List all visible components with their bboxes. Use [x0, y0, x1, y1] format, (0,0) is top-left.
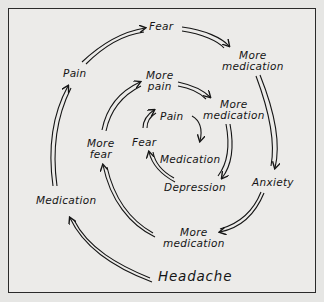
arrow-pain-to-medication	[192, 116, 201, 141]
node-medication-outer: Medication	[36, 195, 96, 206]
node-fear-inner: Fear	[132, 137, 156, 148]
node-more-medication-mid: More medication	[203, 99, 265, 121]
node-more-medication-bottom: More medication	[163, 227, 225, 249]
node-pain-outer: Pain	[63, 68, 87, 79]
arrow-fear-to-pain	[143, 110, 154, 128]
node-more-medication-top: More medication	[222, 50, 284, 72]
node-more-fear: More fear	[87, 138, 114, 160]
node-pain-inner: Pain	[160, 111, 184, 122]
node-headache: Headache	[158, 271, 232, 282]
node-more-pain: More pain	[146, 70, 173, 92]
arrow-more-medication-to-more-fear	[103, 165, 155, 237]
node-medication-inner: Medication	[160, 154, 220, 165]
node-fear-outer: Fear	[149, 21, 173, 32]
spiral-arrows	[0, 0, 324, 302]
node-anxiety: Anxiety	[252, 177, 294, 188]
arrow-more-pain-to-more-medication	[178, 82, 210, 97]
node-depression: Depression	[164, 182, 226, 193]
arrow-more-medication-to-anxiety	[260, 75, 277, 168]
